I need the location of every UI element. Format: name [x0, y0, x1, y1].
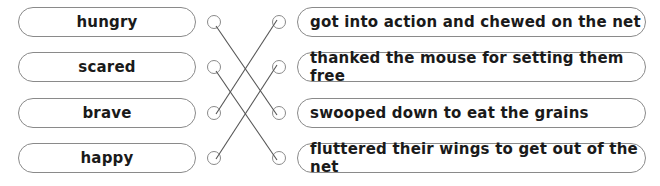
match-line-scared-fluttered: [216, 71, 277, 160]
match-line-brave-action: [216, 20, 277, 114]
right-item-label: swooped down to eat the grains: [310, 104, 589, 122]
right-item-fluttered[interactable]: fluttered their wings to get out of the …: [297, 143, 646, 173]
right-item-label: fluttered their wings to get out of the …: [310, 140, 645, 176]
right-item-label: got into action and chewed on the net: [310, 13, 641, 31]
match-line-hungry-swooped: [216, 26, 277, 115]
right-item-action[interactable]: got into action and chewed on the net: [297, 7, 646, 37]
right-item-swooped[interactable]: swooped down to eat the grains: [297, 98, 646, 128]
match-line-happy-thanked: [216, 65, 277, 159]
right-item-thanked[interactable]: thanked the mouse for setting them free: [297, 52, 646, 82]
right-item-label: thanked the mouse for setting them free: [310, 49, 645, 85]
